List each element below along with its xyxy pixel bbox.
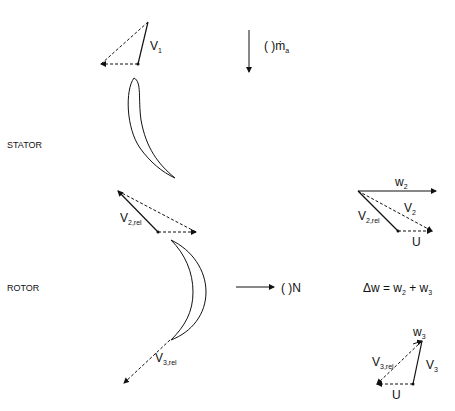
v3rel-label: V3,rel (155, 351, 177, 366)
rotor-exit-velocity-triangle: w3 V3 V3,rel U (372, 325, 438, 402)
v2-label: V2 (404, 201, 416, 216)
v2rel-label: V2,rel (120, 211, 142, 226)
v3-label: V3 (426, 358, 438, 373)
inlet-absolute-dashed (101, 22, 148, 64)
u-bottom-label: U (392, 388, 401, 402)
rotor-blade (171, 240, 206, 340)
v2-vector-dashed (358, 191, 432, 231)
v3rel-right-label: V3,rel (372, 355, 394, 370)
stator-rotor-velocity-diagram: STATOR ROTOR V1 ( )ṁa V2,rel V3,rel ( )N… (0, 0, 455, 411)
rotation-label: ( )N (281, 281, 301, 295)
v1-vector-line (138, 22, 148, 64)
w2-label: w2 (394, 175, 408, 190)
rotor-inlet-relative-triangle: V2,rel (118, 191, 196, 234)
v2rel-origin-dot (157, 231, 160, 234)
mass-flow-label: ( )ṁa (264, 39, 289, 54)
v1-label: V1 (150, 39, 162, 54)
v2rel-right-label: V2,rel (358, 209, 380, 224)
u-top-label: U (412, 235, 421, 249)
v1-origin-dot (137, 63, 140, 66)
u-top-origin-dot (397, 230, 400, 233)
rotor-label: ROTOR (7, 283, 40, 293)
stator-label: STATOR (7, 140, 43, 150)
rotor-inlet-velocity-triangle-combined: w2 V2 V2,rel U (358, 175, 436, 249)
v3-vector-line (413, 341, 422, 384)
v3-origin-dot (412, 383, 415, 386)
w3-label: w3 (412, 325, 426, 340)
stator-blade (128, 78, 175, 178)
work-equation: Δw = w2 + w3 (363, 281, 432, 296)
inlet-velocity-triangle: V1 (101, 22, 162, 66)
